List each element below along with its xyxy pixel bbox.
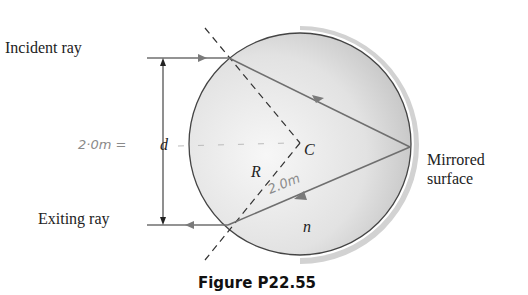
distance-label: d [160,136,169,153]
arrow-down-icon [160,217,166,225]
sphere [189,33,411,255]
radius-label: R [250,163,261,180]
figure-caption: Figure P22.55 [198,274,316,292]
incident-ray-label: Incident ray [5,39,82,57]
arrow-icon [185,221,194,229]
center-label: C [304,141,315,158]
index-label: n [303,218,311,235]
exiting-ray-label: Exiting ray [38,210,110,228]
mirrored-surface-label-1: Mirrored [427,151,485,168]
handwritten-distance: 2·0m = [78,137,126,152]
arrow-icon [198,54,207,62]
arrow-up-icon [160,58,166,66]
mirrored-surface-label-2: surface [427,170,473,187]
figure-diagram: Incident ray Exiting ray Mirrored surfac… [0,0,528,295]
